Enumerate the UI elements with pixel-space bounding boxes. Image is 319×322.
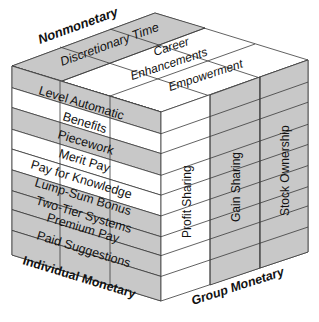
column-stock-ownership: Stock Ownership bbox=[278, 125, 292, 216]
column-profit-sharing: Profit Sharing bbox=[180, 165, 194, 238]
column-gain-sharing: Gain Sharing bbox=[229, 152, 243, 222]
reward-cube-diagram: Nonmonetary Discretionary Time Career En… bbox=[0, 0, 319, 322]
